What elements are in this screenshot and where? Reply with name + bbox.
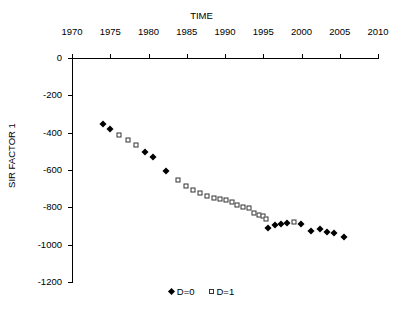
data-point-D=1 (183, 183, 188, 188)
data-point-D=1 (235, 203, 240, 208)
legend-item-D=1: D=1 (209, 285, 235, 297)
y-tick-label--200: -200 (22, 89, 62, 100)
data-point-D=1 (246, 206, 251, 211)
x-axis-title: TIME (0, 10, 403, 21)
y-tick-label--400: -400 (22, 127, 62, 138)
data-point-D=1 (204, 194, 209, 199)
data-point-D=1 (190, 187, 195, 192)
open-square-icon (209, 289, 214, 294)
y-axis-title: SIR FACTOR 1 (6, 101, 17, 211)
y-tick-label--600: -600 (22, 164, 62, 175)
data-point-D=1 (229, 200, 234, 205)
legend-label: D=0 (177, 286, 195, 297)
y-tick-label--800: -800 (22, 201, 62, 212)
data-point-D=1 (217, 196, 222, 201)
x-tick-label-2010: 2010 (355, 26, 401, 37)
y-tick-label-0: 0 (22, 52, 62, 63)
data-point-D=1 (125, 138, 130, 143)
data-point-D=1 (134, 142, 139, 147)
chart-container: TIME SIR FACTOR 1 1970197519801985199019… (0, 0, 403, 314)
data-point-D=1 (291, 220, 296, 225)
data-point-D=1 (117, 132, 122, 137)
data-point-D=1 (223, 198, 228, 203)
legend-item-D=0: D=0 (169, 285, 195, 297)
data-point-D=1 (241, 205, 246, 210)
data-point-D=1 (176, 178, 181, 183)
y-tick--1200 (68, 282, 72, 283)
data-point-D=1 (263, 216, 268, 221)
legend-label: D=1 (217, 286, 235, 297)
filled-diamond-icon (168, 288, 175, 295)
x-tick-2010 (378, 54, 379, 58)
y-tick-label--1000: -1000 (22, 239, 62, 250)
plot-area (72, 58, 378, 282)
data-point-D=1 (197, 191, 202, 196)
chart-legend: D=0D=1 (0, 285, 403, 297)
data-point-D=1 (211, 195, 216, 200)
